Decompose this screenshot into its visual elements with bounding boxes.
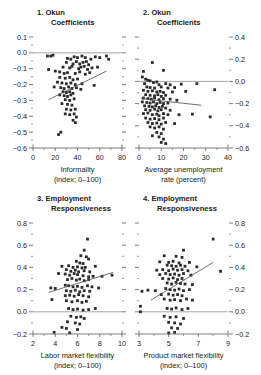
scatter-point: [173, 86, 176, 89]
scatter-point: [166, 307, 169, 310]
scatter-point: [172, 277, 175, 280]
scatter-point: [149, 126, 152, 129]
scatter-point: [158, 136, 161, 139]
scatter-point: [169, 109, 172, 112]
scatter-point: [76, 285, 79, 288]
scatter-point: [170, 308, 173, 311]
scatter-point: [169, 299, 172, 302]
x-tick-label: 40: [224, 153, 232, 162]
scatter-point: [153, 127, 156, 130]
scatter-point: [141, 76, 144, 79]
scatter-point: [188, 288, 191, 291]
scatter-point: [75, 116, 78, 119]
scatter-point: [64, 98, 67, 101]
scatter-point: [83, 65, 86, 68]
scatter-point: [79, 66, 82, 69]
y-tick-label: 0.0: [235, 77, 245, 86]
scatter-point: [172, 268, 175, 271]
scatter-point: [91, 67, 94, 70]
panel-title-line1: 2. Okun: [143, 8, 171, 17]
panel-4-svg: 4. EmploymentResponsiveness0.80.60.40.20…: [131, 186, 261, 374]
scatter-point: [179, 323, 182, 326]
panel-1-svg: 1. OkunCoefficients0.10.0−0.1−0.2−0.3−0.…: [0, 0, 130, 188]
scatter-point: [164, 82, 167, 85]
scatter-point: [76, 273, 79, 276]
scatter-point: [182, 249, 185, 252]
scatter-point: [68, 294, 71, 297]
scatter-point: [171, 91, 174, 94]
scatter-point: [61, 82, 64, 85]
scatter-point: [142, 70, 145, 73]
scatter-point: [87, 295, 90, 298]
panel-title-line2: Coefficients: [51, 18, 94, 27]
y-tick-label: −0.5: [13, 128, 27, 137]
y-tick-label: −0.2: [235, 99, 249, 108]
scatter-point: [67, 264, 70, 267]
scatter-point: [83, 289, 86, 292]
chart-panel-2: 2. OkunCoefficients0.40.20.0−0.2−0.4−0.6…: [131, 0, 261, 188]
scatter-point: [157, 93, 160, 96]
scatter-point: [77, 270, 80, 273]
y-tick-label: 0.4: [235, 263, 245, 272]
scatter-point: [56, 81, 59, 84]
scatter-point: [164, 94, 167, 97]
scatter-point: [74, 289, 77, 292]
scatter-point: [88, 290, 91, 293]
scatter-point: [61, 326, 64, 329]
scatter-point: [82, 294, 85, 297]
scatter-point: [69, 290, 72, 293]
scatter-point: [81, 301, 84, 304]
scatter-point: [162, 69, 165, 72]
scatter-point: [162, 102, 165, 105]
chart-panel-4: 4. EmploymentResponsiveness0.80.60.40.20…: [131, 186, 261, 374]
scatter-point: [66, 71, 69, 74]
scatter-point: [93, 84, 96, 87]
scatter-point: [173, 331, 176, 334]
scatter-point: [163, 254, 166, 257]
scatter-point: [170, 264, 173, 267]
scatter-point: [86, 284, 89, 287]
scatter-point: [182, 272, 185, 275]
scatter-point: [139, 310, 142, 313]
scatter-point: [86, 68, 89, 71]
scatter-point: [141, 101, 144, 104]
scatter-point: [154, 289, 157, 292]
scatter-point: [158, 273, 161, 276]
scatter-point: [167, 113, 170, 116]
scatter-point: [78, 323, 81, 326]
scatter-point: [145, 101, 148, 104]
scatter-point: [144, 93, 147, 96]
panel-title-line2: Responsiveness: [157, 204, 217, 213]
scatter-point: [158, 114, 161, 117]
scatter-point: [175, 315, 178, 318]
scatter-point: [173, 289, 176, 292]
scatter-point: [188, 261, 191, 264]
scatter-point: [94, 55, 97, 58]
y-tick-label: 0.2: [235, 285, 245, 294]
scatter-point: [72, 78, 75, 81]
scatter-point: [167, 87, 170, 90]
scatter-point: [81, 286, 84, 289]
scatter-point: [147, 121, 150, 124]
scatter-point: [88, 71, 91, 74]
scatter-point: [158, 118, 161, 121]
scatter-point: [66, 57, 69, 60]
scatter-point: [63, 87, 66, 90]
scatter-point: [82, 262, 85, 265]
scatter-point: [153, 108, 156, 111]
scatter-point: [155, 131, 158, 134]
scatter-point: [164, 107, 167, 110]
scatter-point: [66, 95, 69, 98]
scatter-point: [155, 269, 158, 272]
scatter-point: [181, 294, 184, 297]
scatter-point: [172, 260, 175, 263]
scatter-point: [69, 315, 72, 318]
scatter-point: [144, 108, 147, 111]
scatter-point: [79, 315, 82, 318]
scatter-point: [54, 70, 57, 73]
scatter-point: [82, 274, 85, 277]
x-axis-sublabel: rate (percent): [161, 175, 205, 184]
scatter-point: [143, 104, 146, 107]
scatter-point: [158, 260, 161, 263]
scatter-point: [162, 97, 165, 100]
